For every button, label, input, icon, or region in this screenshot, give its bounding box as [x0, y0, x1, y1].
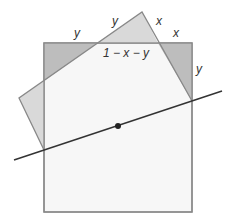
label-top-left-y: y: [73, 26, 81, 40]
label-middle: 1 − x − y: [103, 46, 150, 60]
label-right-x: x: [172, 26, 180, 40]
label-right-y: y: [195, 62, 203, 76]
label-upper-x: x: [155, 14, 163, 28]
label-upper-y: y: [111, 14, 119, 28]
light-triangle-top: [97, 12, 158, 43]
geometry-diagram: y y x x 1 − x − y y: [0, 0, 235, 223]
center-dot: [115, 123, 121, 129]
light-triangle-left: [19, 81, 44, 150]
